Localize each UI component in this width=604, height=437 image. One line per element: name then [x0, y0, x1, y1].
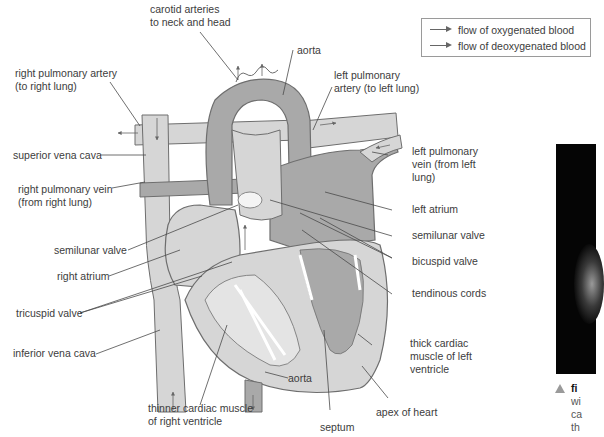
label-tendinous-cords: tendinous cords [412, 287, 486, 300]
label-line: left pulmonary [334, 69, 419, 82]
label-line: ventricle [410, 363, 472, 376]
label-line: lung) [412, 171, 478, 184]
label-inferior-vena-cava: inferior vena cava [13, 347, 96, 360]
label-left-atrium: left atrium [412, 203, 458, 216]
label-line: (to right lung) [15, 80, 117, 93]
arrow-right-icon [430, 26, 452, 34]
label-tricuspid-valve: tricuspid valve [16, 307, 83, 320]
arrow-right-icon [430, 42, 452, 50]
label-line: left pulmonary [412, 145, 478, 158]
label-septum: septum [320, 421, 354, 434]
caption-triangle-icon [555, 384, 565, 393]
label-line: right pulmonary artery [15, 67, 117, 80]
label-line: (from right lung) [18, 196, 113, 209]
caption-heading: fi [571, 382, 577, 394]
label-line: thick cardiac [410, 337, 472, 350]
label-bicuspid-valve: bicuspid valve [412, 255, 478, 268]
label-apex-of-heart: apex of heart [376, 406, 437, 419]
heart-scan-image [574, 244, 604, 324]
legend-item-deoxygenated: flow of deoxygenated blood [430, 40, 586, 52]
label-semilunar-valve-right: semilunar valve [54, 244, 127, 257]
label-carotid-arteries: carotid arteries to neck and head [150, 3, 231, 29]
caption-line: th [571, 421, 582, 434]
caption-line: ca [571, 408, 582, 421]
label-line: vein (from left [412, 158, 478, 171]
label-line: muscle of left [410, 350, 472, 363]
label-thinner-cardiac-muscle: thinner cardiac muscle of right ventricl… [148, 402, 253, 428]
label-right-pulmonary-artery: right pulmonary artery (to right lung) [15, 67, 117, 93]
heart-photo-panel [556, 144, 596, 374]
legend-item-oxygenated: flow of oxygenated blood [430, 24, 574, 36]
figure-caption: fi wi ca th [571, 382, 582, 434]
caption-line: fi [571, 382, 582, 395]
label-right-pulmonary-vein: right pulmonary vein (from right lung) [18, 183, 113, 209]
label-semilunar-valve-left: semilunar valve [412, 229, 485, 242]
legend-label: flow of deoxygenated blood [458, 40, 586, 52]
label-line: of right ventricle [148, 415, 253, 428]
legend-label: flow of oxygenated blood [458, 24, 574, 36]
label-line: right pulmonary vein [18, 183, 113, 196]
legend: flow of oxygenated blood flow of deoxyge… [421, 18, 591, 57]
label-thick-cardiac-muscle: thick cardiac muscle of left ventricle [410, 337, 472, 376]
label-line: carotid arteries [150, 3, 231, 16]
label-line: to neck and head [150, 16, 231, 29]
label-left-pulmonary-artery: left pulmonary artery (to left lung) [334, 69, 419, 95]
label-line: thinner cardiac muscle [148, 402, 253, 415]
label-aorta-top: aorta [297, 44, 321, 57]
label-left-pulmonary-vein: left pulmonary vein (from left lung) [412, 145, 478, 184]
label-right-atrium: right atrium [57, 270, 110, 283]
label-superior-vena-cava: superior vena cava [13, 149, 102, 162]
label-aorta-bottom: aorta [288, 372, 312, 385]
label-line: artery (to left lung) [334, 82, 419, 95]
caption-line: wi [571, 395, 582, 408]
